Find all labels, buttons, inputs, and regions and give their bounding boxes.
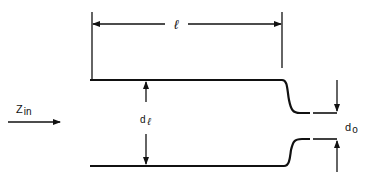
output-diameter-dimension: do — [337, 80, 358, 172]
line-diameter-dimension: dℓ — [140, 82, 152, 164]
do-label: do — [345, 121, 358, 135]
zin-label: Zin — [16, 103, 32, 117]
length-dimension: ℓ — [92, 12, 282, 80]
bottom-conductor — [90, 139, 310, 166]
input-impedance: Zin — [8, 103, 60, 122]
top-conductor — [90, 80, 310, 113]
stepped-line-diagram: ℓ dℓ do Zin — [0, 0, 365, 180]
length-label: ℓ — [174, 17, 179, 32]
dl-label: dℓ — [140, 114, 152, 127]
